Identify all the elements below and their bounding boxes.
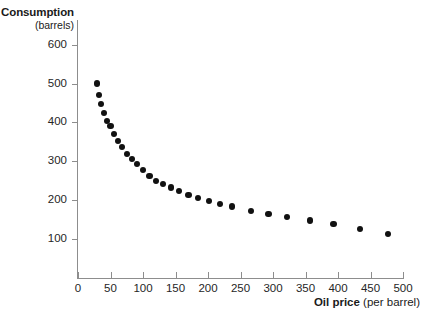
data-point: [146, 173, 152, 179]
data-point: [284, 214, 290, 220]
data-point: [115, 138, 121, 144]
data-point: [98, 101, 104, 107]
data-point: [265, 211, 271, 217]
y-axis-title: Consumption (barrels): [0, 6, 74, 32]
y-tick-300: [72, 161, 78, 162]
y-tick-label-100: 100: [27, 232, 67, 244]
x-tick-300: [273, 272, 274, 278]
data-point: [119, 144, 125, 150]
data-point: [206, 198, 212, 204]
y-tick-label-200: 200: [27, 193, 67, 205]
data-point: [160, 181, 166, 187]
y-tick-label-500: 500: [27, 77, 67, 89]
x-axis-title-units: (per barrel): [363, 296, 420, 308]
x-tick-350: [306, 272, 307, 278]
y-tick-label-600: 600: [27, 38, 67, 50]
x-tick-150: [176, 272, 177, 278]
data-point: [385, 231, 391, 237]
y-tick-200: [72, 200, 78, 201]
data-point: [248, 208, 254, 214]
data-point: [229, 203, 235, 209]
y-tick-600: [72, 45, 78, 46]
data-point: [107, 123, 113, 129]
data-point: [134, 161, 140, 167]
data-point: [94, 80, 100, 86]
data-point: [185, 192, 191, 198]
x-axis-title-main: Oil price: [314, 296, 360, 308]
x-tick-label-500: 500: [383, 282, 423, 294]
y-tick-400: [72, 122, 78, 123]
x-tick-400: [338, 272, 339, 278]
y-axis-title-main: Consumption: [0, 6, 74, 19]
x-tick-0: [78, 272, 79, 278]
data-point: [217, 201, 223, 207]
data-point: [168, 184, 174, 190]
x-tick-500: [403, 272, 404, 278]
x-axis-title: Oil price (per barrel): [224, 296, 420, 308]
data-point: [140, 167, 146, 173]
x-tick-100: [143, 272, 144, 278]
data-point: [101, 110, 107, 116]
data-point: [176, 188, 182, 194]
data-point: [357, 226, 363, 232]
y-axis-title-units: (barrels): [0, 19, 74, 32]
x-tick-50: [111, 272, 112, 278]
data-point: [330, 221, 336, 227]
x-tick-200: [208, 272, 209, 278]
data-point: [307, 217, 313, 223]
data-point: [195, 195, 201, 201]
y-tick-label-400: 400: [27, 115, 67, 127]
y-tick-100: [72, 239, 78, 240]
y-tick-label-300: 300: [27, 154, 67, 166]
scatter-chart: Consumption (barrels) 100200300400500600…: [0, 0, 424, 320]
x-tick-450: [371, 272, 372, 278]
data-point: [111, 131, 117, 137]
y-tick-500: [72, 84, 78, 85]
x-tick-250: [241, 272, 242, 278]
data-point: [153, 178, 159, 184]
data-point: [96, 92, 102, 98]
